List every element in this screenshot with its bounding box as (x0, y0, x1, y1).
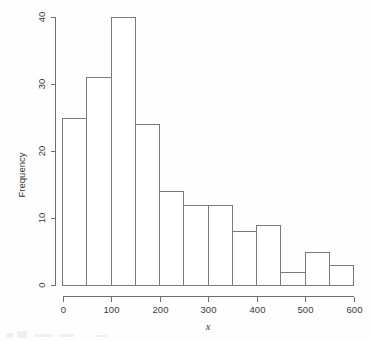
x-tick-label-100: 100 (104, 304, 120, 315)
x-axis-title: x (205, 321, 211, 332)
histogram-bar (232, 232, 256, 286)
histogram-bar (257, 225, 281, 285)
histogram-bars (63, 18, 354, 286)
y-axis-tick-labels: 0 10 20 30 40 (36, 12, 47, 288)
x-tick-label-600: 600 (347, 304, 363, 315)
histogram-bar (281, 272, 305, 285)
y-tick-label-40: 40 (36, 12, 47, 23)
histogram-bar (305, 252, 329, 286)
histogram-figure: Frequency 0 10 20 30 40 0100200300400500… (0, 0, 370, 341)
histogram-bar (63, 118, 87, 286)
y-axis-title: Frequency (16, 152, 27, 197)
x-tick-label-500: 500 (298, 304, 314, 315)
y-tick-label-30: 30 (36, 79, 47, 90)
x-tick-label-0: 0 (61, 304, 66, 315)
histogram-bar (160, 192, 184, 286)
x-axis-ticks (64, 297, 355, 302)
histogram-bar (184, 205, 208, 285)
x-tick-label-200: 200 (153, 304, 169, 315)
y-tick-label-0: 0 (36, 282, 47, 287)
x-axis-tick-labels: 0100200300400500600 (61, 304, 363, 315)
y-tick-label-20: 20 (36, 146, 47, 157)
histogram-bar (329, 265, 353, 285)
histogram-bar (111, 18, 135, 286)
histogram-bar (87, 78, 111, 286)
y-tick-label-10: 10 (36, 213, 47, 224)
x-tick-label-400: 400 (250, 304, 266, 315)
scan-artifacts (6, 331, 107, 338)
plot-canvas: Frequency 0 10 20 30 40 0100200300400500… (0, 0, 370, 341)
histogram-bar (208, 205, 232, 285)
y-axis-ticks (51, 18, 56, 286)
histogram-bar (135, 125, 159, 286)
x-tick-label-300: 300 (201, 304, 217, 315)
